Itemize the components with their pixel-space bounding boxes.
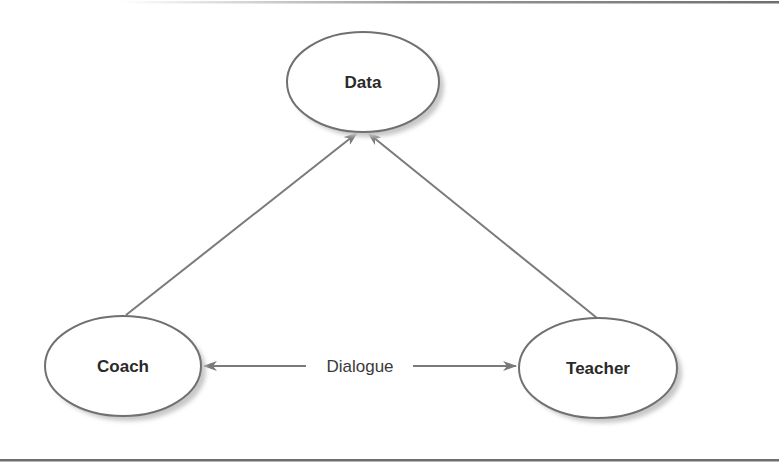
edge-label-dialogue: Dialogue bbox=[326, 357, 393, 376]
relationship-diagram: Dialogue Data Coach Teacher bbox=[0, 0, 779, 470]
node-data: Data bbox=[287, 32, 444, 137]
node-data-label: Data bbox=[345, 73, 382, 92]
bottom-border bbox=[0, 459, 779, 462]
node-coach-label: Coach bbox=[97, 357, 149, 376]
top-border bbox=[120, 1, 779, 4]
node-coach: Coach bbox=[45, 316, 206, 421]
node-teacher-label: Teacher bbox=[566, 359, 630, 378]
edge-coach-to-data bbox=[126, 133, 357, 315]
edge-teacher-to-data bbox=[368, 133, 597, 318]
node-teacher: Teacher bbox=[519, 318, 682, 423]
